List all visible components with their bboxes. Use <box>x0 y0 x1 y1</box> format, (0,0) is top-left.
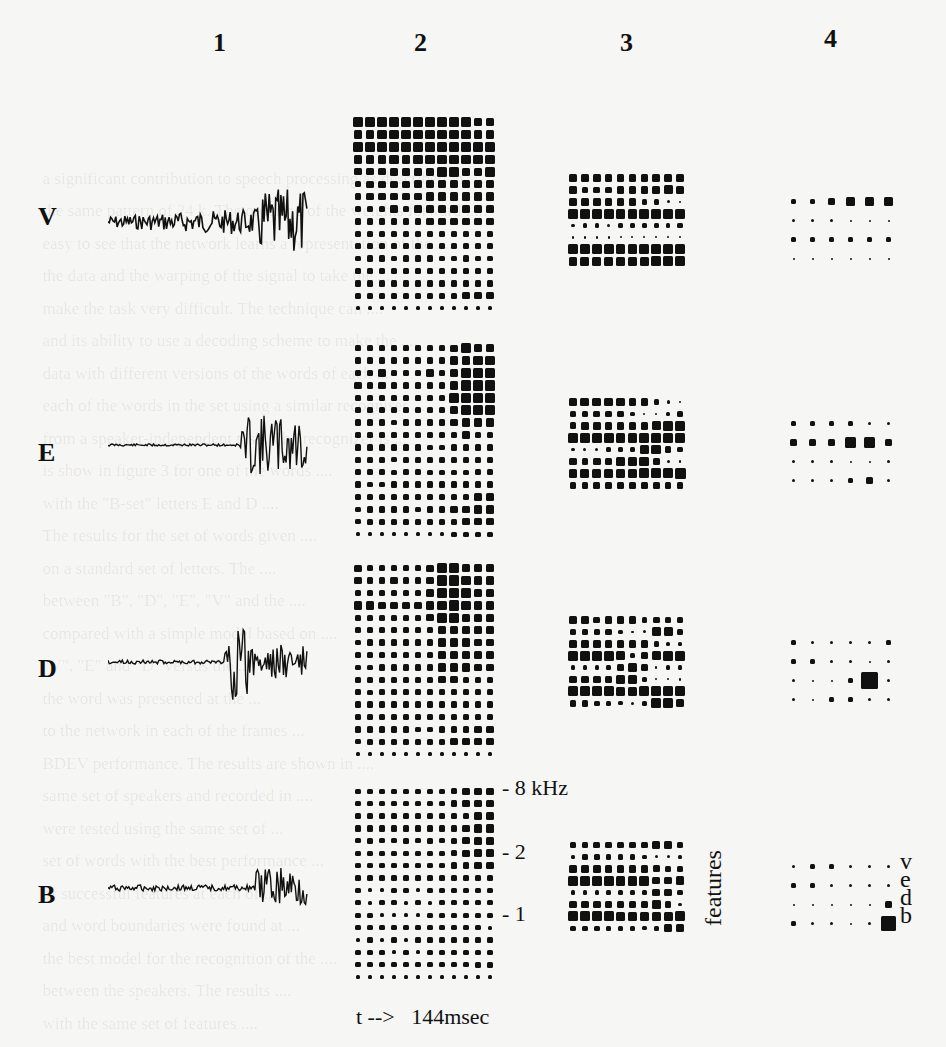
grid-cell <box>850 461 852 463</box>
grid-cell <box>593 422 601 430</box>
grid-cell <box>474 862 481 869</box>
grid-cell <box>367 913 372 918</box>
grid-cell <box>355 652 361 658</box>
grid-cell <box>379 419 385 425</box>
grid-cell <box>413 155 422 164</box>
grid-cell <box>367 677 373 683</box>
grid-cell <box>356 532 360 536</box>
grid-cell <box>888 220 890 222</box>
grid-cell <box>392 950 396 954</box>
grid-cell <box>449 130 458 139</box>
grid-cell <box>487 457 493 463</box>
grid-cell <box>367 268 373 274</box>
grid-cell <box>461 588 470 597</box>
grid-cell <box>462 356 470 364</box>
grid-cell <box>365 117 374 126</box>
grid-cell <box>582 187 589 194</box>
grid-cell <box>486 205 494 213</box>
grid-cell <box>655 855 658 858</box>
grid-cell <box>792 865 795 868</box>
grid-cell <box>850 904 852 906</box>
grid-cell <box>475 689 481 695</box>
grid-cell <box>595 223 599 227</box>
grid-cell <box>811 219 813 221</box>
grid-cell <box>355 457 361 463</box>
grid-cell <box>415 639 421 645</box>
grid-cell <box>402 155 410 163</box>
grid-cell <box>415 875 420 880</box>
grid-cell <box>391 243 397 249</box>
grid-cell <box>355 357 361 363</box>
grid-cell <box>581 174 589 182</box>
grid-cell <box>428 901 432 905</box>
grid-cell <box>355 590 361 596</box>
grid-cell <box>439 370 445 376</box>
grid-cell <box>415 789 420 794</box>
grid-cell <box>628 469 637 478</box>
grid-cell <box>404 913 408 917</box>
grid-cell <box>487 937 492 942</box>
grid-cell <box>391 739 397 745</box>
grid-cell <box>617 411 624 418</box>
grid-cell <box>403 627 409 633</box>
grid-cell <box>629 901 637 909</box>
grid-cell <box>415 577 421 583</box>
grid-cell <box>428 306 432 310</box>
grid-cell <box>849 884 851 886</box>
grid-cell <box>663 256 673 266</box>
grid-cell <box>643 413 645 415</box>
grid-cell <box>416 950 420 954</box>
grid-cell <box>592 469 601 478</box>
grid-cell <box>616 675 625 684</box>
grid-cell <box>450 180 458 188</box>
grid-cell <box>355 913 360 918</box>
grid-cell <box>868 641 871 644</box>
grid-cell <box>463 280 469 286</box>
grid-cell <box>428 975 432 979</box>
grid-cell <box>475 432 481 438</box>
grid-cell <box>848 697 854 703</box>
grid-cell <box>476 752 480 756</box>
column-header-3: 3 <box>620 28 633 58</box>
grid-cell <box>451 519 457 525</box>
grid-cell <box>391 370 397 376</box>
grid-cell <box>592 244 602 254</box>
grid-cell <box>630 653 636 659</box>
grid-cell <box>487 714 493 720</box>
grid-cell <box>617 422 625 430</box>
grid-cell <box>473 380 484 391</box>
grid-cell <box>365 142 374 151</box>
grid-cell <box>367 739 373 745</box>
grid-cell <box>487 888 492 893</box>
grid-cell <box>462 651 470 659</box>
grid-cell <box>403 825 409 831</box>
grid-cell <box>582 629 588 635</box>
grid-cell <box>355 851 360 856</box>
grid-cell <box>379 206 385 212</box>
grid-cell <box>403 739 409 745</box>
grid-cell <box>606 701 612 707</box>
grid-cell <box>485 380 496 391</box>
grid-cell <box>415 677 421 683</box>
grid-cell <box>487 256 492 261</box>
grid-cell <box>486 180 494 188</box>
grid-cell <box>367 838 373 844</box>
waveform-b <box>108 860 313 920</box>
grid-cell <box>356 752 360 756</box>
grid-cell <box>475 243 481 249</box>
grid-cell <box>580 469 589 478</box>
grid-cell <box>581 422 589 430</box>
grid-cell <box>679 401 681 403</box>
grid-cell <box>392 306 396 310</box>
grid-cell <box>473 356 482 365</box>
grid-cell <box>677 223 683 229</box>
grid-cell <box>675 421 685 431</box>
grid-cell <box>487 677 493 683</box>
grid-cell <box>451 432 457 438</box>
grid-cell <box>571 665 575 669</box>
grid-cell <box>829 237 835 243</box>
grid-cell <box>486 849 494 857</box>
grid-cell <box>415 739 421 745</box>
grid-cell <box>355 256 360 261</box>
grid-cell <box>655 413 657 415</box>
